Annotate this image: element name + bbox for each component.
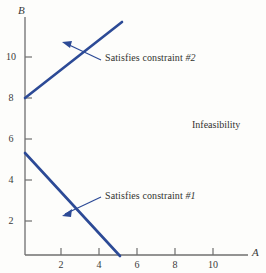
x-tick-label-2: 2 [51,259,71,270]
y-axis-ticks [25,57,32,221]
x-tick-label-8: 8 [165,259,185,270]
x-tick-label-4: 4 [89,259,109,270]
infeasibility-label: Infeasibility [192,119,240,130]
constraint-2-annotation-number: #2 [185,52,195,63]
x-axis-label: A [252,246,259,258]
y-tick-label-10: 10 [0,51,22,62]
x-tick-label-10: 10 [203,259,223,270]
constraint-1-line [25,153,120,256]
y-tick-label-8: 8 [0,92,22,103]
y-tick-label-6: 6 [0,133,22,144]
y-tick-label-2: 2 [0,215,22,226]
y-axis-label: B [18,4,25,16]
constraint-plot [0,0,266,273]
y-tick-label-4: 4 [0,174,22,185]
constraint-2-annotation: Satisfies constraint #2 [105,52,196,63]
x-tick-label-6: 6 [127,259,147,270]
x-axis-ticks [61,248,213,255]
constraint-1-annotation-prefix: Satisfies constraint [105,190,185,201]
constraint-2-annotation-prefix: Satisfies constraint [105,52,185,63]
constraint-1-annotation: Satisfies constraint #1 [105,190,196,201]
constraint-1-annotation-number: #1 [185,190,195,201]
